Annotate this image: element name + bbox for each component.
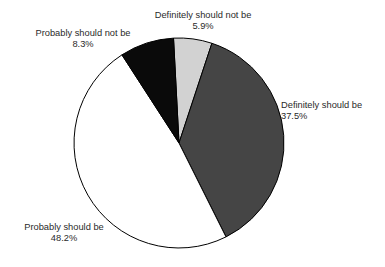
slice-label-percent: 8.3% xyxy=(20,39,146,50)
slice-label-percent: 48.2% xyxy=(6,233,122,244)
pie-chart-figure: Definitely should not be 5.9% Probably s… xyxy=(0,0,385,267)
slice-label-text: Definitely should be xyxy=(281,100,362,110)
slice-label-definitely-should-be: Definitely should be 37.5% xyxy=(281,100,381,123)
slice-label-percent: 5.9% xyxy=(143,21,263,32)
slice-label-text: Probably should not be xyxy=(35,28,130,38)
slice-label-probably-should-not-be: Probably should not be 8.3% xyxy=(20,28,146,51)
slice-label-probably-should-be: Probably should be 48.2% xyxy=(6,222,122,245)
slice-label-text: Definitely should not be xyxy=(155,10,252,20)
slice-label-percent: 37.5% xyxy=(281,111,381,122)
slice-label-definitely-should-not-be: Definitely should not be 5.9% xyxy=(143,10,263,33)
slice-label-text: Probably should be xyxy=(24,222,104,232)
